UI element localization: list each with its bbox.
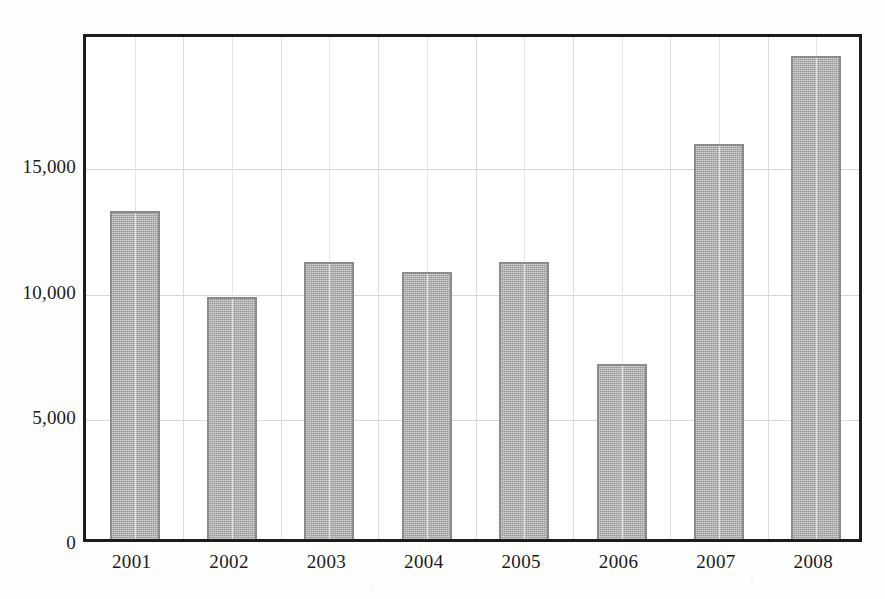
y-axis-tick-label: 15,000 bbox=[2, 157, 76, 176]
gridline-vertical bbox=[476, 37, 477, 539]
bar-midline bbox=[816, 58, 817, 539]
bar bbox=[402, 272, 452, 539]
bar bbox=[694, 144, 744, 539]
x-axis-tick-label: 2007 bbox=[667, 552, 764, 573]
gridline-vertical bbox=[670, 37, 671, 539]
bar bbox=[304, 262, 354, 539]
bar-midline bbox=[232, 299, 233, 539]
gridline-vertical bbox=[378, 37, 379, 539]
plot-area bbox=[86, 37, 859, 539]
bar bbox=[207, 297, 257, 539]
gridline-vertical bbox=[768, 37, 769, 539]
gridline-vertical bbox=[281, 37, 282, 539]
bar bbox=[597, 364, 647, 539]
gridline-vertical bbox=[573, 37, 574, 539]
x-axis-tick-label: 2001 bbox=[83, 552, 180, 573]
x-axis-tick-label: 2002 bbox=[180, 552, 277, 573]
bar-midline bbox=[524, 264, 525, 539]
bar-midline bbox=[719, 146, 720, 539]
gridline-vertical bbox=[183, 37, 184, 539]
y-axis-tick-label: 5,000 bbox=[2, 407, 76, 426]
bar-midline bbox=[622, 366, 623, 539]
bar bbox=[110, 211, 160, 539]
y-axis-tick-label: 10,000 bbox=[2, 282, 76, 301]
bar-midline bbox=[427, 274, 428, 539]
x-axis: 20012002200320042005200620072008 bbox=[83, 552, 862, 586]
y-axis-tick-label: 0 bbox=[2, 533, 76, 552]
chart-page: 05,00010,00015,000 200120022003200420052… bbox=[0, 0, 885, 599]
bar-midline bbox=[135, 213, 136, 539]
bar-midline bbox=[329, 264, 330, 539]
x-axis-tick-label: 2005 bbox=[473, 552, 570, 573]
y-axis: 05,00010,00015,000 bbox=[0, 0, 76, 599]
bar bbox=[499, 262, 549, 539]
bar bbox=[791, 56, 841, 539]
x-axis-tick-label: 2003 bbox=[278, 552, 375, 573]
x-axis-tick-label: 2004 bbox=[375, 552, 472, 573]
plot-frame bbox=[83, 34, 862, 542]
x-axis-tick-label: 2006 bbox=[570, 552, 667, 573]
x-axis-tick-label: 2008 bbox=[765, 552, 862, 573]
